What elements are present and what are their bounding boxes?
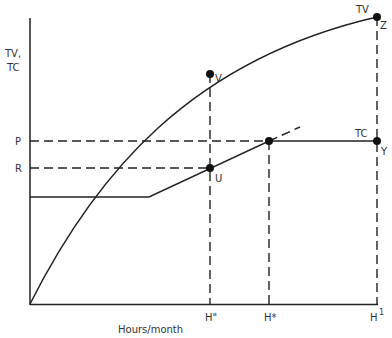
label-z: Z [380,20,387,31]
tick-label-h-one-superscript: 1 [379,308,384,317]
label-v: V [215,73,222,84]
tc-extension-dashed [269,127,300,141]
tick-label-h-double-prime: H" [205,312,217,323]
label-y: Y [380,146,388,157]
label-tv: TV [355,4,369,15]
tick-label-p: P [15,136,21,147]
point-v [206,70,214,78]
point-h-star-intersection [265,137,273,145]
label-tc: TC [354,128,368,139]
tv-curve [30,17,377,304]
point-y [373,137,381,145]
tick-label-h-one: H [370,312,378,323]
point-u [206,164,214,172]
x-axis-label: Hours/month [118,324,183,335]
y-axis-label-tc: TC [6,62,20,73]
tick-label-r: R [15,163,22,174]
label-u: U [215,173,222,184]
tv-tc-diagram: TV, TC P R TV Z V U TC Y H" H* H 1 Hours… [0,0,392,338]
tc-line [30,141,377,197]
tick-label-h-star: H* [264,312,277,323]
y-axis-label-tv: TV, [4,48,21,59]
